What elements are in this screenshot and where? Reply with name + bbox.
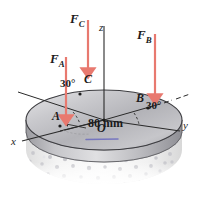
point-a-marker: [58, 124, 61, 127]
point-c-marker: [78, 92, 81, 95]
point-b-label: B: [136, 92, 144, 104]
point-a-label: A: [52, 110, 60, 122]
angle-b-label: 30°: [146, 100, 161, 111]
force-b-label: FB: [137, 28, 152, 44]
force-diagram-figure: FA FC FB z y x C B A O 30° 30° 80 mm: [0, 0, 207, 199]
angle-c-label: 30°: [60, 78, 75, 89]
force-a-label: FA: [50, 52, 65, 68]
y-axis-label: y: [183, 120, 188, 131]
diagram-canvas: [0, 0, 207, 199]
force-c-label: FC: [70, 12, 85, 28]
x-axis-label: x: [11, 136, 16, 147]
rim-highlight: [86, 139, 118, 140]
radius-dimension-label: 80 mm: [88, 117, 123, 129]
z-axis-label: z: [99, 22, 103, 33]
point-c-label: C: [84, 73, 92, 85]
